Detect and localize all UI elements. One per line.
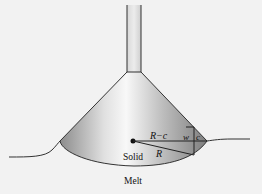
label-r-minus-c: R−c xyxy=(149,130,168,141)
crystal-growth-diagram: R−c w c R Solid Melt xyxy=(0,0,262,194)
label-w: w xyxy=(183,132,189,142)
label-c: c xyxy=(196,132,200,142)
melt-surface-right xyxy=(207,139,250,141)
seed-stem xyxy=(127,5,141,73)
label-r: R xyxy=(155,148,162,159)
label-solid: Solid xyxy=(123,152,143,162)
label-melt: Melt xyxy=(124,176,142,186)
melt-surface-left xyxy=(9,141,60,157)
